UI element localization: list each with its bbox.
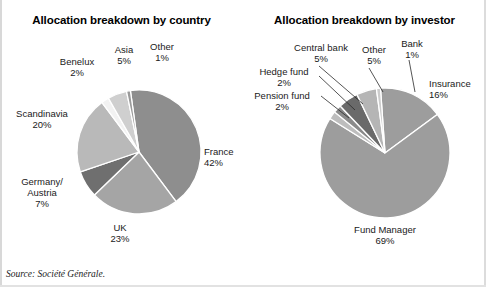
slice-label-asia: Asia 5% — [106, 44, 142, 66]
slice-label-fund-manager: Fund Manager 69% — [345, 224, 425, 246]
slice-label-germany-austria: Germany/ Austria 7% — [12, 176, 72, 209]
leader-line-bank — [409, 60, 415, 92]
slice-label-central-bank: Central bank 5% — [287, 42, 355, 64]
slice-label-benelux: Benelux 2% — [48, 56, 106, 78]
source-note: Source: Société Générale. — [6, 269, 105, 279]
slice-label-other-investor: Other 5% — [355, 44, 393, 66]
chart-panel-country: Allocation breakdown by country Benelux … — [0, 0, 243, 260]
chart-panel-investor: Allocation breakdown by investor Central… — [243, 0, 486, 260]
pie-chart-country — [0, 0, 243, 260]
slice-label-pension-fund: Pension fund 2% — [245, 90, 319, 112]
slice-label-other: Other 1% — [142, 41, 182, 63]
leader-line-central-bank — [319, 66, 363, 104]
slice-label-uk: UK 23% — [100, 222, 140, 244]
slice-label-hedge-fund: Hedge fund 2% — [251, 66, 317, 88]
figure-page: Allocation breakdown by country Benelux … — [0, 0, 486, 287]
slice-label-insurance: Insurance 16% — [429, 78, 485, 100]
pie-chart-investor — [243, 0, 486, 260]
slice-label-france: France 42% — [204, 146, 248, 168]
slice-label-bank: Bank 1% — [395, 38, 429, 60]
slice-label-scandinavia: Scandinavia 20% — [6, 108, 78, 130]
